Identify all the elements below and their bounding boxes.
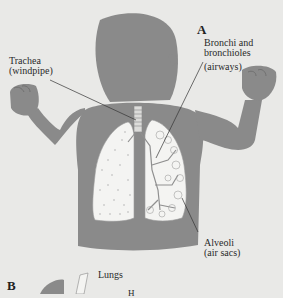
alveoli-label: Alveoli (air sacs) (204, 238, 240, 258)
bronchi-label-line2: bronchioles (204, 48, 253, 58)
panel-b-partial-label: H (128, 288, 135, 298)
alveoli-label-line2: (air sacs) (204, 248, 240, 258)
trachea-label-line2: (windpipe) (9, 66, 53, 76)
trachea (134, 106, 142, 132)
bronchi-label: Bronchi and bronchioles (airways) (204, 38, 253, 72)
panel-a-letter: A (197, 22, 206, 38)
trachea-label: Trachea (windpipe) (9, 56, 53, 76)
bronchi-label-line3: (airways) (204, 62, 253, 72)
panel-b-lung-shape (76, 273, 88, 294)
panel-b-lungs-label: Lungs (98, 270, 123, 280)
panel-b-letter: B (7, 278, 16, 294)
